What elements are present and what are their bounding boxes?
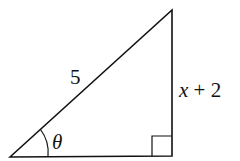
- triangle: [10, 10, 172, 157]
- plus-two: + 2: [188, 78, 221, 102]
- right-triangle-diagram: 5 x + 2 θ: [0, 0, 240, 161]
- angle-label-theta: θ: [52, 130, 62, 154]
- angle-arc: [41, 130, 49, 157]
- vertical-leg-label: x + 2: [178, 78, 221, 102]
- hypotenuse-label: 5: [70, 65, 81, 89]
- right-angle-marker: [152, 136, 172, 156]
